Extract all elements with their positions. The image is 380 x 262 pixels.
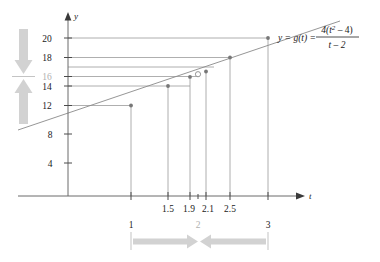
y-tick-label-8: 8	[48, 130, 53, 140]
axes	[18, 12, 305, 199]
formula-numerator-base: 4(t	[321, 25, 332, 36]
y-tick-label-20: 20	[42, 34, 52, 44]
hole-point-open-circle	[195, 72, 200, 77]
t-axis-label: t	[309, 191, 312, 201]
svg-text:4(t2 – 4): 4(t2 – 4)	[321, 24, 352, 37]
formula-denominator: t – 2	[329, 40, 346, 50]
y-tick-label-14: 14	[42, 82, 52, 92]
point-t1p5	[166, 84, 170, 88]
limit-graph-figure: y t 20 18 16 14 12 8 4 1.5 1.9 2.1 2.5 1…	[0, 0, 380, 262]
point-t2p1	[204, 70, 208, 74]
formula-lhs: y = g(t) =	[277, 33, 316, 44]
marked-points	[129, 36, 270, 107]
x-tick-label-2p5: 2.5	[224, 204, 236, 214]
x-tick-label-1p5: 1.5	[162, 204, 174, 214]
t-arrow-left-icon	[200, 235, 266, 249]
y-arrow-up-icon	[15, 79, 33, 124]
y-convergence-arrows	[12, 29, 35, 124]
x-tick-label-3: 3	[266, 220, 271, 230]
x-tick-label-2: 2	[196, 220, 201, 230]
formula-numerator-tail: – 4)	[335, 25, 352, 36]
x-tick-label-2p1: 2.1	[202, 204, 214, 214]
point-t2p5	[228, 56, 232, 60]
y-tick-label-18: 18	[42, 53, 52, 63]
vertical-guide-lines	[131, 38, 268, 196]
svg-text:y = g(t) =: y = g(t) =	[277, 33, 316, 44]
y-tick-label-4: 4	[48, 159, 53, 169]
curve-formula-label: y = g(t) = 4(t2 – 4) t – 2	[277, 24, 359, 51]
t-arrow-right-icon	[133, 235, 198, 249]
x-tick-label-1: 1	[129, 220, 134, 230]
point-t1p9	[188, 75, 192, 79]
point-t3	[266, 36, 270, 40]
x-tick-label-1p9: 1.9	[183, 204, 195, 214]
y-tick-label-12: 12	[42, 101, 52, 111]
y-arrow-down-icon	[15, 29, 33, 74]
y-axis-label: y	[73, 11, 78, 21]
t-convergence-arrows	[131, 232, 268, 250]
y-tick-label-16: 16	[42, 72, 52, 82]
point-t1	[129, 104, 133, 108]
